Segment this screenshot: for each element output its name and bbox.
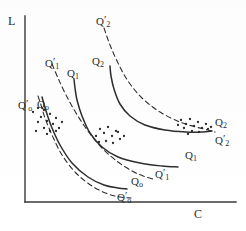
curve-label-q0-axis: Qo bbox=[37, 99, 49, 112]
data-point bbox=[35, 130, 37, 132]
label-base: Q bbox=[215, 134, 223, 146]
data-point bbox=[55, 117, 57, 119]
data-point bbox=[207, 128, 209, 130]
data-point bbox=[115, 130, 117, 132]
data-point bbox=[198, 131, 200, 133]
data-point bbox=[37, 121, 39, 123]
data-point bbox=[185, 123, 187, 125]
data-point bbox=[180, 119, 182, 121]
curve-qo-prime bbox=[38, 96, 131, 198]
label-subscript: 2 bbox=[100, 60, 104, 69]
data-point bbox=[95, 135, 97, 137]
label-subscript: 2 bbox=[223, 121, 227, 130]
label-base: Q bbox=[45, 57, 53, 69]
figure-canvas: L C Q′2Q′1Q1Q2Q′oQoQ2Q′2Q1Q′1QoQ′o bbox=[0, 0, 246, 231]
curve-label-q2-prime-top: Q′2 bbox=[96, 14, 110, 29]
data-point bbox=[58, 127, 60, 129]
data-point bbox=[177, 124, 179, 126]
data-point bbox=[183, 127, 185, 129]
data-point bbox=[49, 130, 51, 132]
label-subscript: o bbox=[127, 196, 131, 205]
label-base: Q bbox=[215, 116, 223, 128]
data-point bbox=[55, 130, 57, 132]
data-point bbox=[99, 128, 101, 130]
label-base: Q bbox=[185, 149, 193, 161]
curve-label-q1-right: Q1 bbox=[185, 150, 197, 163]
label-subscript: 1 bbox=[193, 154, 197, 163]
data-point bbox=[193, 125, 195, 127]
data-point bbox=[46, 120, 48, 122]
curve-label-q0-prime-axis: Q′o bbox=[18, 98, 32, 113]
data-point bbox=[117, 131, 119, 133]
data-point bbox=[111, 135, 113, 137]
curve-q1 bbox=[74, 79, 178, 167]
label-subscript: o bbox=[45, 103, 49, 112]
label-base: Q bbox=[155, 168, 163, 180]
curve-q2-prime bbox=[104, 28, 215, 132]
curve-label-q1-left: Q1 bbox=[67, 68, 79, 81]
data-point bbox=[49, 113, 51, 115]
data-point bbox=[205, 123, 207, 125]
scatter-group bbox=[32, 107, 212, 144]
curve-label-q2-prime-right: Q′2 bbox=[215, 133, 229, 148]
data-point bbox=[43, 127, 45, 129]
label-base: Q bbox=[131, 175, 139, 187]
x-axis-label: C bbox=[194, 207, 203, 222]
label-base: Q bbox=[67, 67, 75, 79]
data-point bbox=[61, 121, 63, 123]
label-base: Q bbox=[96, 15, 104, 27]
label-subscript: o bbox=[139, 180, 143, 189]
data-point bbox=[52, 123, 54, 125]
data-point bbox=[201, 127, 203, 129]
label-subscript: 1 bbox=[55, 62, 59, 71]
y-axis-label: L bbox=[8, 14, 16, 29]
label-subscript: 1 bbox=[75, 72, 79, 81]
data-point bbox=[98, 141, 100, 143]
curve-label-q2-left: Q2 bbox=[92, 56, 104, 69]
curve-qo bbox=[42, 97, 127, 189]
curve-label-q1-prime-left: Q′1 bbox=[45, 56, 59, 71]
label-subscript: 2 bbox=[225, 139, 229, 148]
data-point bbox=[191, 130, 193, 132]
label-base: Q bbox=[18, 99, 26, 111]
data-point bbox=[210, 126, 212, 128]
data-point bbox=[103, 132, 105, 134]
data-point bbox=[112, 142, 114, 144]
curve-label-q0-right: Qo bbox=[131, 176, 143, 189]
data-point bbox=[107, 126, 109, 128]
data-point bbox=[105, 140, 107, 142]
label-subscript: 2 bbox=[106, 20, 110, 29]
label-base: Q bbox=[117, 191, 125, 203]
curve-label-q2-right: Q2 bbox=[215, 117, 227, 130]
curve-group bbox=[38, 28, 215, 198]
data-point bbox=[46, 133, 48, 135]
curve-label-q0-prime-bottom: Q′o bbox=[117, 190, 131, 205]
data-point bbox=[119, 138, 121, 140]
curve-label-q1-prime-right: Q′1 bbox=[155, 167, 169, 182]
label-base: Q bbox=[37, 98, 45, 110]
label-base: Q bbox=[92, 55, 100, 67]
data-point bbox=[189, 118, 191, 120]
label-subscript: 1 bbox=[165, 173, 169, 182]
data-point bbox=[187, 133, 189, 135]
data-point bbox=[197, 121, 199, 123]
data-point bbox=[40, 116, 42, 118]
label-subscript: o bbox=[28, 104, 32, 113]
data-point bbox=[123, 135, 125, 137]
